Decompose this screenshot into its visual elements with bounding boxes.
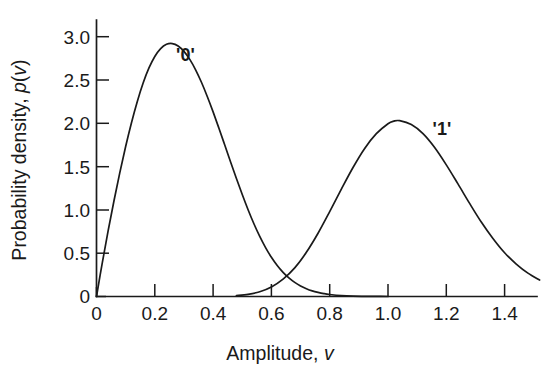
- y-tick-label-1: 0.5: [64, 243, 90, 264]
- curve-one: [236, 120, 539, 295]
- x-axis-title: Amplitude, v: [226, 342, 335, 364]
- y-tick-label-4: 2.0: [64, 113, 90, 134]
- y-axis-title-paren-close: ): [8, 59, 30, 66]
- curve-zero: [97, 43, 389, 296]
- x-tick-label-1: 0.2: [142, 303, 168, 324]
- y-axis-title: Probability density, p(v): [8, 59, 30, 260]
- probability-density-chart: 0 0.5 1.0 1.5 2.0 2.5 3.0 0 0.2 0.4 0.6 …: [0, 0, 559, 371]
- y-tick-label-0: 0: [79, 286, 90, 307]
- y-tick-labels: 0 0.5 1.0 1.5 2.0 2.5 3.0: [64, 27, 90, 308]
- y-tick-label-3: 1.5: [64, 157, 90, 178]
- x-tick-label-7: 1.4: [491, 303, 518, 324]
- x-tick-labels: 0 0.2 0.4 0.6 0.8 1.0 1.2 1.4: [91, 303, 518, 324]
- x-tick-label-0: 0: [91, 303, 102, 324]
- curve-label-zero: '0': [176, 45, 195, 65]
- x-tick-label-3: 0.6: [258, 303, 284, 324]
- x-tick-label-6: 1.2: [433, 303, 459, 324]
- y-tick-label-2: 1.0: [64, 200, 90, 221]
- x-tick-label-4: 0.8: [316, 303, 342, 324]
- y-axis-title-text: Probability density,: [8, 93, 30, 261]
- x-tick-label-2: 0.4: [200, 303, 227, 324]
- figure-container: 0 0.5 1.0 1.5 2.0 2.5 3.0 0 0.2 0.4 0.6 …: [0, 0, 559, 371]
- y-tick-label-6: 3.0: [64, 27, 90, 48]
- y-axis-title-symbol: p: [8, 82, 30, 94]
- x-axis-title-text: Amplitude,: [226, 342, 324, 364]
- curve-label-one: '1': [433, 119, 452, 139]
- x-axis-title-symbol: v: [324, 342, 335, 364]
- x-tick-label-5: 1.0: [375, 303, 401, 324]
- y-tick-label-5: 2.5: [64, 70, 90, 91]
